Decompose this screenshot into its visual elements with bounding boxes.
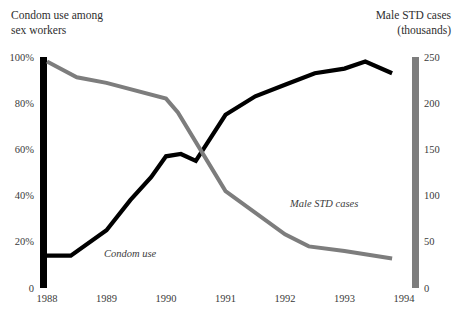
dual-axis-line-chart: Condom use among sex workers Male STD ca… [0, 0, 459, 318]
series-annotation-male-std: Male STD cases [290, 198, 358, 209]
series-line-condom-use [47, 62, 392, 256]
series-line-male-std [47, 62, 392, 259]
plot-area [0, 0, 459, 318]
series-annotation-condom-use: Condom use [104, 248, 156, 259]
